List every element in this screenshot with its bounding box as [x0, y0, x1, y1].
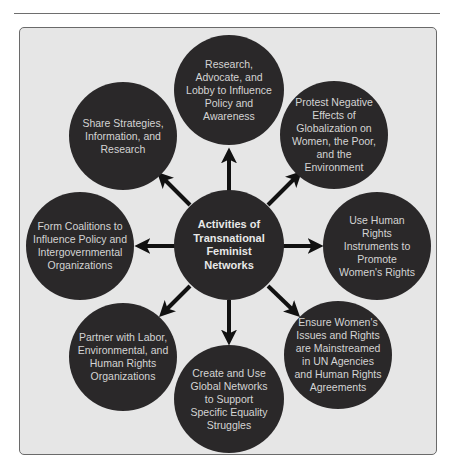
node-center: Activities of Transnational Feminist Net… [174, 190, 284, 300]
node-top-left-label: Share Strategies, Information, and Resea… [81, 117, 165, 156]
node-right: Use Human Rights Instruments to Promote … [323, 192, 431, 300]
node-bottom: Create and Use Global Networks to Suppor… [174, 345, 284, 453]
arrow-to-top-right [268, 175, 298, 205]
node-bottom-left: Partner with Labor, Environmental, and H… [69, 303, 177, 411]
node-right-label: Use Human Rights Instruments to Promote … [335, 214, 419, 279]
node-bottom-right: Ensure Women's Issues and Rights are Mai… [284, 301, 392, 409]
node-left: Form Coalitions to Influence Policy and … [26, 192, 134, 300]
node-top-right-label: Protest Negative Effects of Globalizatio… [290, 96, 378, 174]
node-left-label: Form Coalitions to Influence Policy and … [32, 220, 128, 272]
arrow-to-top-left [161, 176, 190, 205]
arrow-to-bottom-right [268, 286, 296, 313]
arrow-to-bottom-left [163, 286, 190, 313]
node-top: Research, Advocate, and Lobby to Influen… [174, 35, 284, 145]
node-top-right: Protest Negative Effects of Globalizatio… [280, 81, 388, 189]
node-bottom-left-label: Partner with Labor, Environmental, and H… [77, 331, 169, 383]
node-center-label: Activities of Transnational Feminist Net… [192, 218, 266, 272]
node-bottom-label: Create and Use Global Networks to Suppor… [186, 367, 272, 432]
node-top-label: Research, Advocate, and Lobby to Influen… [186, 58, 272, 123]
node-bottom-right-label: Ensure Women's Issues and Rights are Mai… [292, 316, 384, 394]
node-top-left: Share Strategies, Information, and Resea… [69, 82, 177, 190]
